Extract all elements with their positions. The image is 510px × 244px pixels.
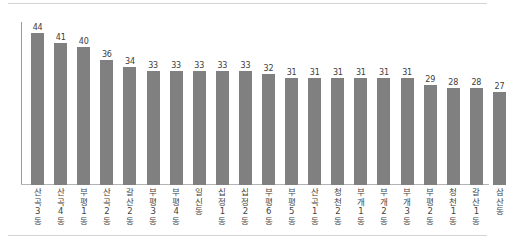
category-label-column: 삼 산 동	[488, 188, 510, 238]
bar-column[interactable]: 28	[442, 8, 465, 185]
bar-column[interactable]: 28	[465, 8, 488, 185]
bar-column[interactable]: 31	[303, 8, 326, 185]
bar-column[interactable]: 29	[419, 8, 442, 185]
bar-value-label: 28	[471, 78, 481, 87]
bar-column[interactable]: 33	[188, 8, 211, 185]
bar-column[interactable]: 33	[211, 8, 234, 185]
bar-rect[interactable]	[170, 71, 183, 185]
bar-rect[interactable]	[31, 33, 44, 185]
bar-rect[interactable]	[354, 78, 367, 185]
category-label: 부 평 4 동	[172, 188, 180, 226]
bar-column[interactable]: 31	[326, 8, 349, 185]
bar-rect[interactable]	[377, 78, 390, 185]
plot-area: 4441403634333333333332313131313131292828…	[21, 8, 487, 185]
bar-column[interactable]: 34	[118, 8, 141, 185]
category-label: 산 곡 3 동	[34, 188, 42, 226]
bar-series: 4441403634333333333332313131313131292828…	[21, 8, 487, 185]
bar-column[interactable]: 40	[72, 8, 95, 185]
bar-rect[interactable]	[77, 47, 90, 185]
bar-rect[interactable]	[331, 78, 344, 185]
category-label: 산 곡 4 동	[57, 188, 65, 226]
bar-value-label: 33	[241, 61, 251, 70]
figure-top-rule	[8, 3, 487, 4]
bar-value-label: 36	[102, 50, 112, 59]
category-label: 부 개 2 동	[380, 188, 388, 226]
category-label: 산 곡 1 동	[311, 188, 319, 226]
category-label: 일 신 동	[195, 188, 203, 217]
category-label-column: 청 천 2 동	[326, 188, 349, 238]
bar-value-label: 31	[379, 68, 389, 77]
bar-rect[interactable]	[262, 74, 275, 185]
bar-rect[interactable]	[447, 88, 460, 185]
category-label: 부 평 2 동	[426, 188, 434, 226]
bar-column[interactable]: 41	[49, 8, 72, 185]
category-label: 청 천 1 동	[449, 188, 457, 226]
bar-rect[interactable]	[285, 78, 298, 185]
bar-value-label: 33	[217, 61, 227, 70]
bar-rect[interactable]	[54, 43, 67, 185]
bar-value-label: 34	[125, 57, 135, 66]
category-label: 청 천 2 동	[334, 188, 342, 226]
category-label: 부 개 3 동	[403, 188, 411, 226]
category-label: 부 평 6 동	[265, 188, 273, 226]
category-axis-labels: 산 곡 3 동산 곡 4 동부 평 1 동산 곡 2 동갈 산 2 동부 평 3…	[21, 188, 487, 238]
bar-rect[interactable]	[193, 71, 206, 185]
bar-rect[interactable]	[239, 71, 252, 185]
bar-column[interactable]: 36	[95, 8, 118, 185]
category-label-column: 부 평 4 동	[165, 188, 188, 238]
category-label: 산 곡 2 동	[103, 188, 111, 226]
category-label: 부 평 3 동	[149, 188, 157, 226]
bar-rect[interactable]	[123, 67, 136, 185]
category-label-column: 산 곡 2 동	[95, 188, 118, 238]
category-label-column: 부 평 1 동	[72, 188, 95, 238]
bar-column[interactable]: 33	[141, 8, 164, 185]
bar-rect[interactable]	[147, 71, 160, 185]
category-label-column: 부 개 3 동	[396, 188, 419, 238]
category-label-column: 십 정 2 동	[234, 188, 257, 238]
category-label: 십 정 1 동	[218, 188, 226, 226]
bar-column[interactable]: 32	[257, 8, 280, 185]
bar-rect[interactable]	[308, 78, 321, 185]
bar-value-label: 31	[402, 68, 412, 77]
bar-column[interactable]: 27	[488, 8, 510, 185]
category-label-column: 부 평 2 동	[419, 188, 442, 238]
bar-column[interactable]: 31	[349, 8, 372, 185]
bar-column[interactable]: 33	[165, 8, 188, 185]
category-label-column: 청 천 1 동	[442, 188, 465, 238]
category-label-column: 산 곡 3 동	[26, 188, 49, 238]
bar-rect[interactable]	[216, 71, 229, 185]
bar-value-label: 33	[194, 61, 204, 70]
bar-value-label: 41	[56, 33, 66, 42]
bar-rect[interactable]	[470, 88, 483, 185]
bar-value-label: 44	[33, 23, 43, 32]
bar-value-label: 31	[287, 68, 297, 77]
bar-column[interactable]: 33	[234, 8, 257, 185]
category-label-column: 산 곡 1 동	[303, 188, 326, 238]
bar-value-label: 33	[171, 61, 181, 70]
bar-value-label: 32	[264, 64, 274, 73]
bar-value-label: 31	[356, 68, 366, 77]
bar-column[interactable]: 31	[280, 8, 303, 185]
category-label: 갈 산 1 동	[472, 188, 480, 226]
bar-column[interactable]: 31	[372, 8, 395, 185]
category-label: 갈 산 2 동	[126, 188, 134, 226]
category-label-column: 일 신 동	[188, 188, 211, 238]
bar-value-label: 40	[79, 37, 89, 46]
bar-column[interactable]: 44	[26, 8, 49, 185]
category-label: 십 정 2 동	[241, 188, 249, 226]
category-label-column: 부 평 6 동	[257, 188, 280, 238]
category-label-column: 산 곡 4 동	[49, 188, 72, 238]
category-label-column: 부 개 2 동	[372, 188, 395, 238]
bar-value-label: 31	[310, 68, 320, 77]
bar-rect[interactable]	[100, 60, 113, 185]
bar-rect[interactable]	[424, 85, 437, 185]
category-label: 부 평 1 동	[80, 188, 88, 226]
bar-column[interactable]: 31	[396, 8, 419, 185]
bar-value-label: 27	[495, 82, 505, 91]
bar-rect[interactable]	[493, 92, 506, 185]
bar-value-label: 29	[425, 75, 435, 84]
category-label-column: 부 평 5 동	[280, 188, 303, 238]
bar-rect[interactable]	[401, 78, 414, 185]
category-label-column: 갈 산 2 동	[118, 188, 141, 238]
